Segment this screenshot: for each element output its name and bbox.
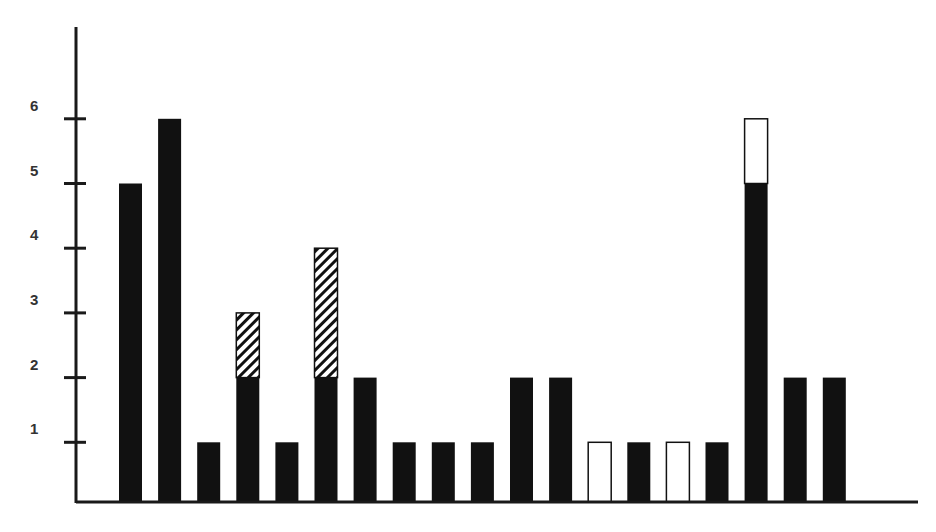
bar-12-solid xyxy=(549,378,572,502)
y-ticks-group: 123456 xyxy=(30,97,86,443)
bar-18-solid xyxy=(784,378,807,502)
bar-19-solid xyxy=(823,378,846,502)
stacked-bar-chart: 123456 xyxy=(0,0,936,532)
bar-10-solid xyxy=(471,442,494,502)
bar-17-solid xyxy=(745,184,768,503)
bar-15-open xyxy=(666,442,689,502)
y-tick-label: 1 xyxy=(30,420,38,437)
y-tick-label: 2 xyxy=(30,356,38,373)
bar-1-solid xyxy=(119,184,142,503)
bar-4-solid xyxy=(236,378,259,502)
bar-5-solid xyxy=(275,442,298,502)
bar-9-solid xyxy=(432,442,455,502)
bar-14-solid xyxy=(627,442,650,502)
y-tick-label: 6 xyxy=(30,97,38,114)
bar-3-solid xyxy=(197,442,220,502)
bars-group xyxy=(119,119,846,502)
bar-7-solid xyxy=(354,378,377,502)
y-tick-label: 3 xyxy=(30,291,38,308)
bar-2-solid xyxy=(158,119,181,502)
y-tick-label: 4 xyxy=(30,226,39,243)
bar-17-open xyxy=(745,119,768,184)
y-tick-label: 5 xyxy=(30,162,38,179)
bar-8-solid xyxy=(393,442,416,502)
bar-11-solid xyxy=(510,378,533,502)
bar-6-solid xyxy=(315,378,338,502)
bar-16-solid xyxy=(706,442,729,502)
bar-13-open xyxy=(588,442,611,502)
bar-4-hatched xyxy=(236,313,259,378)
bar-6-hatched xyxy=(315,248,338,377)
